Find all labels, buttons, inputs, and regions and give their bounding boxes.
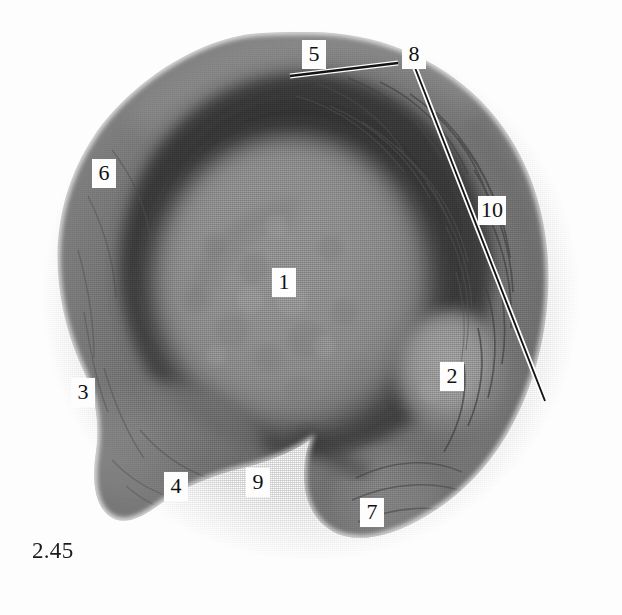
callout-label-3[interactable]: 3 [71, 378, 95, 407]
figure-panel: 1 2 3 4 5 6 7 8 9 10 2.45 [0, 0, 622, 615]
callout-label-2[interactable]: 2 [440, 362, 464, 391]
callout-label-5[interactable]: 5 [302, 40, 326, 69]
embryo-photograph [0, 0, 622, 615]
callout-label-9[interactable]: 9 [246, 468, 270, 497]
callout-label-8[interactable]: 8 [402, 40, 426, 69]
callout-label-1[interactable]: 1 [272, 268, 296, 297]
figure-number: 2.45 [32, 538, 73, 564]
callout-label-7[interactable]: 7 [360, 498, 384, 527]
callout-label-4[interactable]: 4 [164, 472, 188, 501]
callout-label-6[interactable]: 6 [92, 159, 116, 188]
callout-label-10[interactable]: 10 [478, 196, 506, 225]
